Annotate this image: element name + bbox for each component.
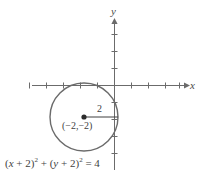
- equation-rhs: 4: [94, 157, 100, 169]
- circle-equation-text: (x + 2)2 + (y + 2)2 = 4: [5, 157, 100, 169]
- y-axis-label: y: [111, 6, 116, 17]
- center-coordinates-label: (−2,−2): [62, 121, 92, 131]
- circle-equation-figure: y x 2 (−2,−2) (x + 2)2 + (y + 2)2 = 4: [0, 0, 201, 179]
- equation-plus: +: [38, 157, 50, 169]
- equation-equals: =: [83, 157, 95, 169]
- radius-length-label: 2: [97, 104, 102, 114]
- coordinate-plane-svg: [0, 0, 201, 179]
- equation-op-1: +: [14, 157, 26, 169]
- equation-op-2: +: [58, 157, 70, 169]
- y-axis-arrowhead: [111, 18, 117, 24]
- x-axis-label: x: [190, 80, 195, 91]
- center-point-dot: [81, 114, 86, 119]
- axis-group: [32, 18, 190, 170]
